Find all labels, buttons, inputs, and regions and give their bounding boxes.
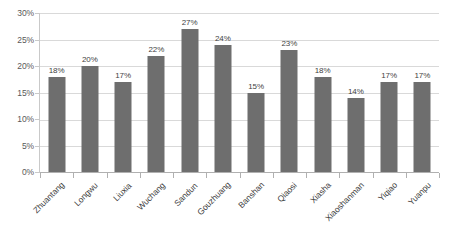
bar-value-label: 23% [282,39,298,48]
x-category-label: Liuxia [111,180,133,202]
x-category-label: Longwu [72,180,100,208]
y-tick-label-20: 20% [17,61,34,71]
bar-value-label: 17% [381,71,397,80]
bar-group[interactable]: 18% [306,13,339,173]
x-category-label: Yiqiao [376,180,399,203]
y-tick-label-15: 15% [17,88,34,98]
bar[interactable] [414,82,431,173]
x-category-label: Xiasha [308,180,333,205]
bar[interactable] [314,77,331,173]
bar[interactable] [214,45,231,173]
y-axis: 30% 25% 20% 15% 10% 5% 0% [0,0,38,238]
bar-value-label: 14% [348,87,364,96]
bar-value-label: 17% [415,71,431,80]
bar-group[interactable]: 18% [40,13,73,173]
bar-group[interactable]: 17% [373,13,406,173]
bar-value-label: 27% [182,18,198,27]
bars-layer: 18%20%17%22%27%24%15%23%18%14%17%17% [40,13,439,173]
y-tick-label-30: 30% [17,8,34,18]
bar-chart: 30% 25% 20% 15% 10% 5% 0% 18%20%17%22%27… [0,0,453,238]
y-tick-label-0: 0% [22,167,34,177]
bar-value-label: 22% [149,45,165,54]
bar[interactable] [48,77,65,173]
x-category-label: Qiaosi [275,180,299,204]
bar-value-label: 20% [82,55,98,64]
x-category-label: Sandun [172,180,199,207]
x-tick-mark [439,173,440,178]
x-category-label: Yuanpu [406,180,433,207]
bar-value-label: 18% [315,66,331,75]
bar[interactable] [281,50,298,173]
bar-group[interactable]: 14% [339,13,372,173]
bar[interactable] [248,93,265,173]
y-tick-label-5: 5% [22,141,34,151]
bar-group[interactable]: 24% [206,13,239,173]
bar[interactable] [347,98,364,173]
y-tick-label-10: 10% [17,114,34,124]
x-category-label: Wuchang [135,180,167,212]
bar-value-label: 24% [215,34,231,43]
x-category-label: Gouzhuang [195,180,233,218]
bar[interactable] [115,82,132,173]
x-category-label: Banshan [236,180,266,210]
bar[interactable] [148,56,165,173]
bar[interactable] [81,66,98,173]
bar-group[interactable]: 23% [273,13,306,173]
x-axis-labels: ZhuantangLongwuLiuxiaWuchangSandunGouzhu… [40,178,439,238]
bar-group[interactable]: 17% [107,13,140,173]
y-tick-label-25: 25% [17,35,34,45]
bar[interactable] [181,29,198,173]
bar-value-label: 18% [49,66,65,75]
bar-group[interactable]: 22% [140,13,173,173]
bar-group[interactable]: 27% [173,13,206,173]
bar-group[interactable]: 17% [406,13,439,173]
bar[interactable] [381,82,398,173]
bar-group[interactable]: 20% [73,13,106,173]
bar-group[interactable]: 15% [240,13,273,173]
bar-value-label: 17% [115,71,131,80]
bar-value-label: 15% [248,82,264,91]
